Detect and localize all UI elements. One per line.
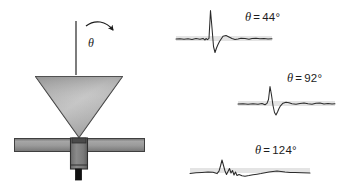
transducer-collar [72,138,86,143]
rotation-arrow-icon [86,22,113,30]
schematic-group [15,21,145,180]
figure-canvas [0,0,343,189]
waveform-label-124: θ=124° [255,144,297,157]
waveform-panel-92 [238,87,335,116]
angle-value-44: 44° [262,11,280,23]
waveform-panel-124 [190,160,310,176]
equals-sign-44: = [252,11,262,23]
cone-shading-overlay [36,77,123,138]
angle-value-92: 92° [304,72,322,84]
figure-root: θ θ=44° θ=92° θ=124° [0,0,343,189]
angle-value-124: 124° [272,144,297,156]
equals-sign-124: = [262,144,272,156]
waveform-trace-92 [238,87,335,116]
waveform-label-92: θ=92° [287,72,322,85]
equals-sign-92: = [294,72,304,84]
theta-symbol-diagram: θ [88,37,94,49]
waveform-label-44: θ=44° [245,11,280,24]
contact-tip [76,169,82,180]
